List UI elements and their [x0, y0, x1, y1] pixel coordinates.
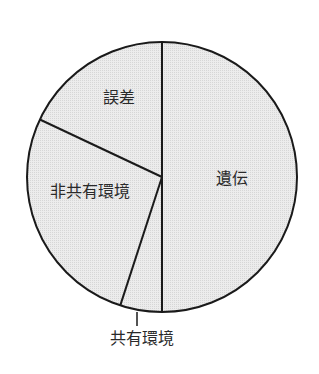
- label-nonshared-env: 非共有環境: [50, 178, 130, 202]
- pie-slices: [27, 42, 297, 312]
- pie-chart: [0, 0, 319, 374]
- label-heredity: 遺伝: [216, 165, 248, 189]
- label-shared-env: 共有環境: [110, 325, 174, 349]
- label-error: 誤差: [103, 84, 135, 108]
